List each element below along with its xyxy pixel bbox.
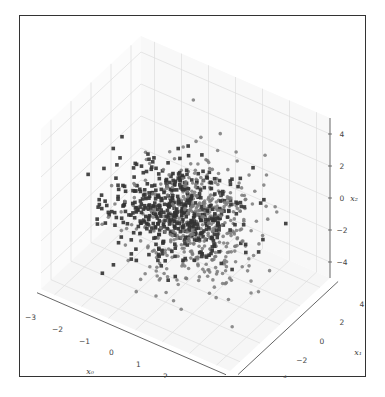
svg-text:4: 4 — [359, 300, 364, 309]
svg-text:−3: −3 — [25, 313, 36, 322]
svg-text:2: 2 — [339, 318, 344, 327]
svg-text:0: 0 — [340, 194, 345, 203]
svg-text:−2: −2 — [296, 356, 307, 365]
svg-text:x₀: x₀ — [86, 367, 95, 376]
svg-text:0: 0 — [109, 348, 114, 357]
svg-text:4: 4 — [340, 130, 345, 139]
svg-text:−1: −1 — [79, 337, 90, 346]
svg-text:−4: −4 — [276, 374, 287, 378]
3d-scatter-plot: −3−2−10123x₀−4−2024x₁−4−2024x₂ — [20, 16, 367, 378]
svg-text:−2: −2 — [52, 325, 63, 334]
svg-text:−2: −2 — [336, 226, 347, 235]
svg-text:x₂: x₂ — [350, 194, 358, 203]
svg-text:x₁: x₁ — [354, 348, 362, 357]
svg-text:2: 2 — [163, 372, 168, 378]
svg-text:2: 2 — [340, 162, 345, 171]
figure-frame: −3−2−10123x₀−4−2024x₁−4−2024x₂ — [19, 15, 366, 377]
svg-text:0: 0 — [319, 337, 324, 346]
svg-text:1: 1 — [136, 360, 141, 369]
svg-text:−4: −4 — [336, 258, 347, 267]
